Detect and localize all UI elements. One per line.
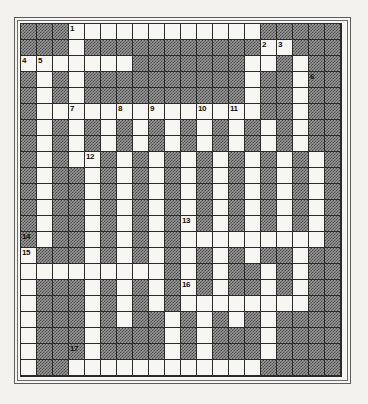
letter-cell[interactable] — [21, 280, 37, 296]
letter-cell[interactable] — [69, 88, 85, 104]
letter-cell[interactable] — [149, 200, 165, 216]
letter-cell[interactable] — [37, 104, 53, 120]
letter-cell[interactable] — [213, 296, 229, 312]
letter-cell[interactable] — [181, 360, 197, 376]
letter-cell[interactable] — [149, 232, 165, 248]
letter-cell[interactable] — [245, 184, 261, 200]
letter-cell[interactable] — [133, 136, 149, 152]
letter-cell[interactable] — [69, 152, 85, 168]
letter-cell[interactable] — [213, 168, 229, 184]
letter-cell[interactable] — [181, 184, 197, 200]
letter-cell[interactable] — [117, 280, 133, 296]
letter-cell[interactable] — [245, 248, 261, 264]
letter-cell[interactable] — [149, 280, 165, 296]
letter-cell[interactable] — [181, 168, 197, 184]
letter-cell[interactable] — [85, 232, 101, 248]
letter-cell[interactable] — [149, 248, 165, 264]
letter-cell[interactable] — [21, 344, 37, 360]
letter-cell[interactable] — [293, 264, 309, 280]
letter-cell[interactable] — [277, 184, 293, 200]
letter-cell[interactable] — [101, 56, 117, 72]
letter-cell[interactable] — [21, 312, 37, 328]
letter-cell[interactable] — [101, 360, 117, 376]
letter-cell[interactable] — [117, 184, 133, 200]
letter-cell[interactable] — [37, 88, 53, 104]
letter-cell[interactable] — [277, 200, 293, 216]
letter-cell[interactable] — [309, 216, 325, 232]
letter-cell[interactable] — [117, 248, 133, 264]
letter-cell[interactable] — [245, 152, 261, 168]
letter-cell[interactable] — [293, 72, 309, 88]
letter-cell[interactable] — [309, 152, 325, 168]
letter-cell[interactable] — [149, 360, 165, 376]
letter-cell[interactable] — [213, 264, 229, 280]
letter-cell[interactable] — [85, 296, 101, 312]
letter-cell[interactable] — [117, 360, 133, 376]
letter-cell[interactable] — [149, 296, 165, 312]
letter-cell[interactable] — [165, 120, 181, 136]
letter-cell[interactable] — [149, 264, 165, 280]
letter-cell[interactable]: 2 — [261, 40, 277, 56]
letter-cell[interactable]: 7 — [69, 104, 85, 120]
letter-cell[interactable] — [165, 136, 181, 152]
letter-cell[interactable] — [117, 296, 133, 312]
letter-cell[interactable] — [181, 264, 197, 280]
letter-cell[interactable] — [117, 168, 133, 184]
letter-cell[interactable] — [245, 232, 261, 248]
letter-cell[interactable] — [181, 248, 197, 264]
letter-cell[interactable] — [165, 328, 181, 344]
letter-cell[interactable] — [261, 56, 277, 72]
letter-cell[interactable] — [277, 152, 293, 168]
letter-cell[interactable] — [37, 72, 53, 88]
letter-cell[interactable] — [213, 24, 229, 40]
letter-cell[interactable] — [69, 40, 85, 56]
letter-cell[interactable] — [101, 104, 117, 120]
letter-cell[interactable] — [229, 296, 245, 312]
letter-cell[interactable] — [37, 136, 53, 152]
letter-cell[interactable] — [117, 312, 133, 328]
letter-cell[interactable] — [117, 24, 133, 40]
letter-cell[interactable] — [149, 152, 165, 168]
letter-cell[interactable] — [197, 120, 213, 136]
letter-cell[interactable] — [277, 296, 293, 312]
letter-cell[interactable] — [245, 104, 261, 120]
letter-cell[interactable] — [293, 136, 309, 152]
letter-cell[interactable] — [197, 136, 213, 152]
letter-cell[interactable] — [309, 200, 325, 216]
letter-cell[interactable] — [101, 24, 117, 40]
letter-cell[interactable] — [21, 360, 37, 376]
letter-cell[interactable]: 3 — [277, 40, 293, 56]
letter-cell[interactable] — [117, 152, 133, 168]
letter-cell[interactable] — [37, 232, 53, 248]
letter-cell[interactable] — [85, 328, 101, 344]
letter-cell[interactable] — [245, 72, 261, 88]
letter-cell[interactable] — [85, 216, 101, 232]
letter-cell[interactable] — [69, 264, 85, 280]
letter-cell[interactable] — [293, 280, 309, 296]
letter-cell[interactable] — [149, 168, 165, 184]
letter-cell[interactable] — [197, 312, 213, 328]
letter-cell[interactable] — [101, 136, 117, 152]
letter-cell[interactable] — [69, 136, 85, 152]
letter-cell[interactable] — [261, 344, 277, 360]
letter-cell[interactable] — [85, 56, 101, 72]
letter-cell[interactable] — [101, 264, 117, 280]
letter-cell[interactable] — [197, 24, 213, 40]
letter-cell[interactable] — [245, 216, 261, 232]
letter-cell[interactable] — [85, 168, 101, 184]
letter-cell[interactable] — [37, 216, 53, 232]
letter-cell[interactable]: 11 — [229, 104, 245, 120]
letter-cell[interactable] — [149, 184, 165, 200]
letter-cell[interactable] — [117, 264, 133, 280]
letter-cell[interactable] — [245, 24, 261, 40]
letter-cell[interactable] — [229, 24, 245, 40]
letter-cell[interactable] — [213, 104, 229, 120]
letter-cell[interactable] — [197, 296, 213, 312]
letter-cell[interactable] — [133, 104, 149, 120]
letter-cell[interactable] — [245, 296, 261, 312]
letter-cell[interactable]: 9 — [149, 104, 165, 120]
letter-cell[interactable] — [229, 232, 245, 248]
letter-cell[interactable] — [85, 24, 101, 40]
letter-cell[interactable] — [85, 264, 101, 280]
letter-cell[interactable] — [117, 232, 133, 248]
